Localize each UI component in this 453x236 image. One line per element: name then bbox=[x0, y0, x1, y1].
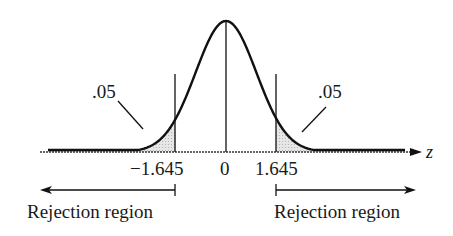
normal-distribution-chart: .05 .05 −1.645 0 1.645 z Rejection regio… bbox=[0, 0, 453, 236]
left-rejection-area bbox=[48, 118, 176, 152]
tick-label-pos-crit: 1.645 bbox=[255, 158, 298, 179]
area-label-left: .05 bbox=[92, 81, 116, 102]
area-label-right: .05 bbox=[318, 81, 342, 102]
tick-label-neg-crit: −1.645 bbox=[130, 158, 183, 179]
rejection-region-label-left: Rejection region bbox=[27, 201, 154, 222]
area-leader-right bbox=[302, 107, 326, 132]
axis-variable-label: z bbox=[425, 142, 433, 162]
right-rejection-area bbox=[276, 118, 405, 152]
area-leader-left bbox=[118, 101, 143, 129]
z-axis-arrowhead-icon bbox=[410, 148, 422, 156]
rejection-region-label-right: Rejection region bbox=[274, 201, 401, 222]
tick-label-zero: 0 bbox=[220, 158, 230, 179]
